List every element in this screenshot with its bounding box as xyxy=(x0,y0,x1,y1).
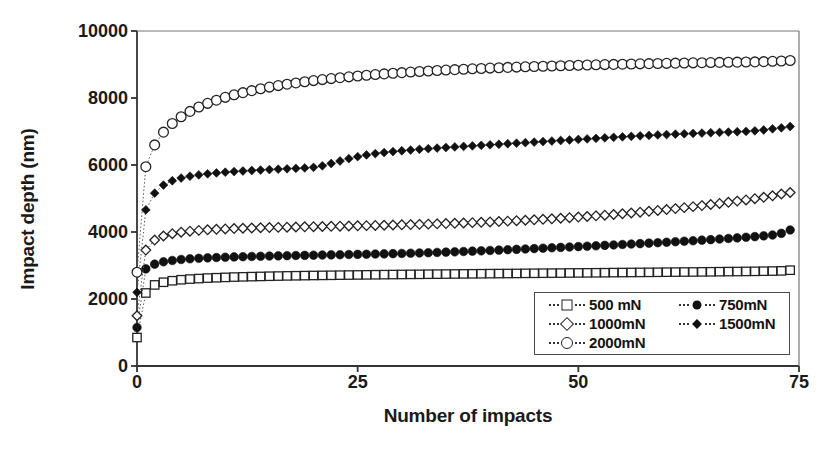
data-marker xyxy=(274,165,283,174)
data-marker xyxy=(459,247,468,256)
data-marker xyxy=(450,218,460,228)
data-marker xyxy=(212,274,220,282)
data-marker xyxy=(503,216,513,226)
data-marker xyxy=(741,195,751,205)
data-marker xyxy=(300,164,309,173)
x-axis-title: Number of impacts xyxy=(137,405,799,427)
data-marker xyxy=(759,193,769,203)
data-marker xyxy=(530,244,539,253)
data-marker xyxy=(336,271,344,279)
data-marker xyxy=(512,216,522,226)
data-marker xyxy=(777,229,786,238)
data-marker xyxy=(256,166,265,175)
legend-item-1000mn[interactable]: 1000mN xyxy=(535,315,665,332)
data-marker xyxy=(168,176,177,185)
data-marker xyxy=(176,112,186,122)
data-marker xyxy=(627,268,635,276)
data-marker xyxy=(468,247,477,256)
data-marker xyxy=(626,208,636,218)
data-marker xyxy=(556,269,564,277)
data-marker xyxy=(521,269,529,277)
data-marker xyxy=(265,165,274,174)
data-marker xyxy=(186,275,194,283)
legend-item-2000mn[interactable]: 2000mN xyxy=(535,334,665,351)
data-marker xyxy=(768,124,777,133)
data-marker xyxy=(495,269,503,277)
data-marker xyxy=(476,218,486,228)
data-marker xyxy=(671,130,680,139)
data-marker xyxy=(203,274,211,282)
data-marker xyxy=(592,134,601,143)
data-marker xyxy=(565,269,573,277)
data-marker xyxy=(618,132,627,141)
data-marker xyxy=(256,272,264,280)
data-marker xyxy=(486,269,494,277)
data-marker xyxy=(751,232,760,241)
data-marker xyxy=(618,209,628,219)
chart-legend: 500 mN750mN1000mN1500mN2000mN xyxy=(534,292,790,355)
data-marker xyxy=(459,218,469,228)
data-marker xyxy=(485,217,495,227)
data-marker xyxy=(133,333,141,341)
data-marker xyxy=(318,161,327,170)
legend-label: 1500mN xyxy=(719,315,775,332)
data-marker xyxy=(777,123,786,132)
data-marker xyxy=(636,239,645,248)
data-marker xyxy=(707,268,715,276)
data-marker xyxy=(645,239,654,248)
data-marker xyxy=(441,219,451,229)
data-marker xyxy=(442,143,451,152)
data-marker xyxy=(327,271,335,279)
data-marker xyxy=(645,268,653,276)
data-marker xyxy=(230,273,238,281)
data-marker xyxy=(635,207,645,217)
data-marker xyxy=(273,81,283,91)
legend-label: 750mN xyxy=(719,296,767,313)
data-marker xyxy=(309,251,318,260)
data-marker xyxy=(724,128,733,137)
data-marker xyxy=(574,212,584,222)
data-marker xyxy=(777,267,785,275)
data-marker xyxy=(504,269,512,277)
data-marker xyxy=(609,210,619,220)
data-marker xyxy=(274,272,282,280)
data-marker xyxy=(503,139,512,148)
data-marker xyxy=(185,226,195,236)
data-marker xyxy=(609,133,618,142)
data-marker xyxy=(592,242,601,251)
data-marker xyxy=(679,203,689,213)
data-marker xyxy=(397,146,406,155)
data-marker xyxy=(150,281,158,289)
legend-label: 2000mN xyxy=(589,334,645,351)
data-marker xyxy=(732,196,742,206)
data-marker xyxy=(177,276,185,284)
data-marker xyxy=(662,205,672,215)
legend-dash-right xyxy=(705,304,715,306)
legend-item-1500mn[interactable]: 1500mN xyxy=(665,315,791,332)
data-marker xyxy=(159,181,168,190)
data-marker xyxy=(248,272,256,280)
data-marker xyxy=(662,130,671,139)
data-marker xyxy=(742,267,750,275)
data-marker xyxy=(680,268,688,276)
data-marker xyxy=(689,268,697,276)
data-marker xyxy=(150,260,159,269)
legend-item-750mn[interactable]: 750mN xyxy=(665,296,791,313)
data-marker xyxy=(565,243,574,252)
data-marker xyxy=(168,256,177,265)
data-marker xyxy=(238,88,248,98)
data-marker xyxy=(600,210,610,220)
data-marker xyxy=(398,249,407,258)
data-marker xyxy=(768,267,776,275)
data-marker xyxy=(159,231,169,241)
data-marker xyxy=(583,135,592,144)
data-marker xyxy=(406,146,415,155)
data-marker xyxy=(442,248,451,257)
legend-item-500mn[interactable]: 500 mN xyxy=(535,296,665,313)
data-marker xyxy=(380,250,389,259)
data-marker xyxy=(724,267,732,275)
legend-marker-square-open-icon xyxy=(549,298,585,312)
data-marker xyxy=(141,205,150,214)
data-marker xyxy=(574,269,582,277)
data-marker xyxy=(186,254,195,263)
